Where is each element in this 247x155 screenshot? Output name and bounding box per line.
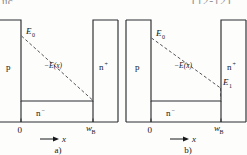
- figure-panel-b: p n − n + E 0 E 1 −E(x): [124, 0, 247, 155]
- field-curve-label-b: −E(x): [174, 61, 192, 70]
- svg-text:0: 0: [32, 32, 35, 38]
- svg-text:n: n: [227, 62, 232, 72]
- svg-text:E: E: [155, 28, 162, 38]
- svg-text:+: +: [105, 61, 109, 67]
- svg-text:−: −: [172, 107, 176, 113]
- svg-text:+: +: [233, 61, 237, 67]
- field-value-E0-label-b: E 0: [155, 28, 165, 40]
- x-axis-arrow-b: [170, 137, 189, 142]
- figure-root: uc (12-12) p n: [0, 0, 247, 155]
- svg-text:E: E: [222, 77, 229, 87]
- x-axis-tick-wb-b: w B: [214, 123, 224, 135]
- region-label-n-minus-a: n −: [36, 107, 46, 118]
- region-label-p-b: p: [135, 62, 140, 72]
- panel-caption-a: a): [55, 145, 62, 155]
- svg-text:B: B: [92, 129, 96, 135]
- x-axis-a: [0, 119, 118, 123]
- x-axis-tick-origin-a: 0: [18, 125, 23, 135]
- region-label-n-plus-b: n +: [227, 61, 237, 72]
- svg-text:n: n: [99, 62, 104, 72]
- x-axis-tick-wb-a: w B: [86, 123, 96, 135]
- svg-text:n: n: [166, 108, 171, 118]
- svg-text:1: 1: [229, 83, 232, 89]
- field-value-E1-label-b: E 1: [222, 77, 232, 89]
- x-axis-b: [126, 119, 246, 123]
- x-axis-label-b: x: [191, 134, 196, 144]
- figure-panel-a: p n − n + E 0 −E(x): [0, 0, 123, 155]
- x-axis-arrow-a: [40, 137, 59, 142]
- svg-text:−: −: [42, 107, 46, 113]
- region-label-n-plus-a: n +: [99, 61, 109, 72]
- panel-caption-b: b): [184, 145, 192, 155]
- region-label-n-minus-b: n −: [166, 107, 176, 118]
- field-value-E0-label-a: E 0: [25, 26, 35, 38]
- x-axis-tick-origin-b: 0: [148, 125, 153, 135]
- svg-text:0: 0: [162, 34, 165, 40]
- field-curve-label-a: −E(x): [44, 61, 62, 70]
- region-label-p-a: p: [6, 62, 11, 72]
- svg-text:E: E: [25, 26, 32, 36]
- svg-text:n: n: [36, 108, 41, 118]
- svg-text:B: B: [220, 129, 224, 135]
- x-axis-label-a: x: [61, 134, 66, 144]
